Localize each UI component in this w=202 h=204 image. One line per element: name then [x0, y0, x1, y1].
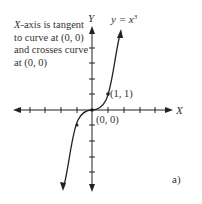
- equation-exponent: 3: [133, 13, 138, 21]
- tangent-annotation: X-axis is tangent to curve at (0, 0) and…: [14, 19, 94, 69]
- panel-label: a): [172, 173, 181, 186]
- curve-bottom-arrow-icon: [60, 182, 66, 191]
- y-axis-down-arrow-icon: [89, 184, 95, 192]
- annotation-line-1: -axis is tangent: [20, 19, 84, 30]
- point-origin-marker: [90, 108, 94, 112]
- x-axis-right-arrow-icon: [165, 107, 173, 113]
- x-axis-left-arrow-icon: [13, 107, 21, 113]
- equation-lhs: y = x: [110, 13, 134, 25]
- x-axis-label: X: [175, 104, 184, 116]
- annotation-line-2: to curve at (0, 0): [14, 32, 84, 43]
- annotation-line-4: at (0, 0): [14, 57, 47, 68]
- point-neg-marker: [76, 124, 79, 127]
- equation-label: y = x3: [110, 13, 138, 25]
- annotation-line-3: and crosses curve: [14, 44, 88, 55]
- point-1-1-label: (1, 1): [110, 88, 133, 100]
- point-origin-label: (0, 0): [96, 114, 119, 126]
- curve-top-arrow-icon: [117, 29, 123, 38]
